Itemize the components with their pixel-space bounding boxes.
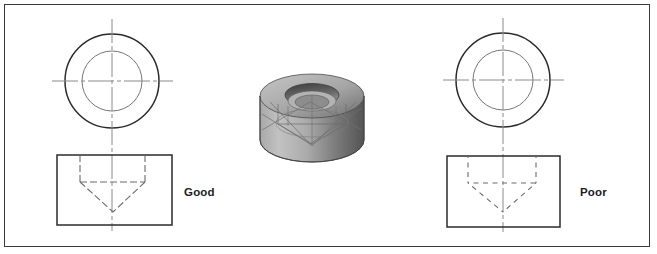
engineering-drawing-figure: Good Poor — [0, 0, 657, 254]
poor-label: Poor — [580, 186, 607, 198]
poor-hidden-cone-left-edge — [468, 183, 503, 212]
poor-hidden-cone-right-edge — [503, 183, 536, 212]
good-label: Good — [184, 186, 215, 198]
counterbored-cylinder-3d-model — [252, 68, 372, 176]
